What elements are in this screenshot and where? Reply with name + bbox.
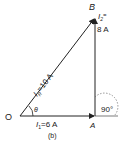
phasor-diagram: B O A I2= 8 A IR=10 A θ 90° I1=6 A (b) [0,0,127,154]
label-b: B [89,2,95,12]
label-i1: I1=6 A [36,120,58,130]
label-o: O [5,112,12,122]
label-theta: θ [34,106,38,113]
vector-ir [20,19,94,116]
label-ir: IR=10 A [31,71,56,99]
label-90deg: 90° [101,105,113,114]
theta-arc [29,106,33,116]
caption: (b) [48,132,57,140]
label-i2-value: 8 A [97,25,109,34]
label-i2: I2= [98,12,107,22]
label-a: A [89,121,95,130]
